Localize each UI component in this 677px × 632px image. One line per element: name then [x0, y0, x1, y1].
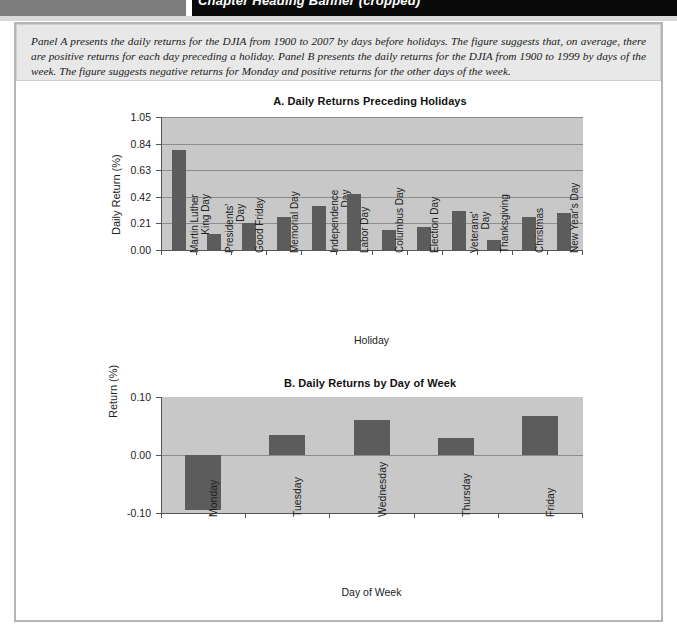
x-tick-mark: [407, 250, 408, 255]
y-tick-mark: [156, 223, 161, 224]
y-tick-mark: [156, 197, 161, 198]
x-tick-mark: [414, 513, 415, 518]
y-tick-mark: [156, 144, 161, 145]
x-tick-label: Election Day: [429, 197, 440, 253]
gridline: [162, 117, 583, 118]
x-tick-mark: [329, 513, 330, 518]
y-tick-mark: [156, 455, 161, 456]
x-tick-label: Monday: [208, 480, 219, 517]
x-tick-label: Christmas: [534, 208, 545, 253]
bar: [354, 420, 390, 455]
bar: [172, 150, 186, 250]
x-tick-label: Wednesday: [377, 462, 388, 517]
panel-a-x-axis-title: Holiday: [161, 334, 582, 346]
x-tick-label: New Year's Day: [569, 183, 580, 253]
y-tick-mark: [156, 117, 161, 118]
y-tick-label: 0.63: [105, 165, 151, 175]
bar: [522, 416, 558, 455]
y-tick-label: 0.00: [105, 245, 151, 255]
figure-caption-text: Panel A presents the daily returns for t…: [17, 25, 660, 80]
x-tick-label: Columbus Day: [394, 187, 405, 253]
y-tick-mark: [156, 170, 161, 171]
banner-title-text: Chapter Heading Banner (cropped): [198, 0, 420, 8]
x-tick-label: Thanksgiving: [499, 194, 510, 253]
x-tick-mark: [477, 250, 478, 255]
gridline: [162, 144, 583, 145]
gridline: [162, 197, 583, 198]
x-tick-mark: [547, 250, 548, 255]
bar: [312, 206, 326, 250]
x-tick-mark: [582, 250, 583, 255]
y-tick-label: 0.10: [105, 392, 151, 402]
x-tick-mark: [196, 250, 197, 255]
x-tick-mark: [161, 250, 162, 255]
banner-left-block: [0, 0, 186, 16]
x-tick-mark: [231, 250, 232, 255]
x-tick-mark: [498, 513, 499, 518]
gridline: [162, 170, 583, 171]
x-tick-mark: [512, 250, 513, 255]
x-tick-label: Memorial Day: [289, 191, 300, 253]
bar: [207, 234, 221, 250]
figure-caption-box: Panel A presents the daily returns for t…: [16, 24, 661, 81]
banner-rule: [0, 16, 677, 21]
zero-line: [162, 455, 583, 456]
x-tick-mark: [336, 250, 337, 255]
y-tick-mark: [156, 397, 161, 398]
y-tick-label: 0.21: [105, 218, 151, 228]
x-tick-mark: [372, 250, 373, 255]
x-tick-mark: [266, 250, 267, 255]
x-tick-mark: [245, 513, 246, 518]
x-tick-label: Labor Day: [359, 207, 370, 253]
banner-right-block: Chapter Heading Banner (cropped): [192, 0, 677, 16]
x-tick-label: Friday: [545, 488, 556, 517]
y-tick-label: 0.00: [105, 450, 151, 460]
panel-a-title: A. Daily Returns Preceding Holidays: [150, 95, 590, 107]
page-banner: Chapter Heading Banner (cropped): [0, 0, 677, 16]
bar: [269, 435, 305, 455]
x-tick-mark: [301, 250, 302, 255]
x-tick-label: Thursday: [461, 473, 472, 517]
x-tick-label: Tuesday: [292, 477, 303, 517]
bar: [438, 438, 474, 455]
panel-b-plot-area: [161, 397, 583, 514]
x-tick-label: Good Friday: [254, 198, 265, 253]
x-tick-mark: [442, 250, 443, 255]
panel-b-x-axis-title: Day of Week: [161, 586, 582, 598]
y-tick-label: 1.05: [105, 112, 151, 122]
x-tick-mark: [161, 513, 162, 518]
bar: [452, 211, 466, 250]
x-tick-mark: [582, 513, 583, 518]
panel-b-title: B. Daily Returns by Day of Week: [150, 377, 590, 389]
y-tick-label: 0.84: [105, 139, 151, 149]
y-tick-label: -0.10: [105, 508, 151, 518]
y-tick-label: 0.42: [105, 192, 151, 202]
